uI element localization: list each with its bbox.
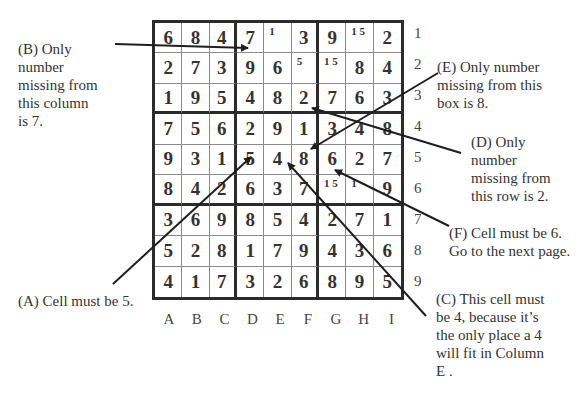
cell-value: 1 [245, 240, 255, 262]
cell-value: 7 [245, 27, 255, 49]
annotation-d-line: number [471, 151, 551, 169]
cell-d4: 2 [237, 114, 264, 144]
cell-e7: 5 [264, 206, 291, 236]
cell-h9: 9 [346, 267, 373, 297]
cell-i5: 7 [374, 145, 401, 175]
column-label: D [238, 311, 266, 328]
cell-c9: 7 [210, 267, 237, 297]
cell-g5: 6 [319, 145, 346, 175]
cell-c6: 2 [210, 175, 237, 205]
cell-value: 2 [245, 118, 255, 140]
annotation-e-line: box is 8. [437, 94, 542, 112]
cell-a7: 3 [155, 206, 182, 236]
annotation-f-line: (F) Cell must be 6. [449, 224, 570, 242]
cell-value: 6 [245, 178, 255, 200]
cell-d7: 8 [237, 206, 264, 236]
cell-c5: 1 [210, 145, 237, 175]
cell-b2: 7 [182, 53, 209, 83]
cell-f5: 8 [292, 145, 319, 175]
cell-h8: 3 [346, 236, 373, 266]
cell-c3: 5 [210, 84, 237, 114]
cell-value: 9 [327, 27, 337, 49]
cell-h4: 4 [346, 114, 373, 144]
cell-b7: 6 [182, 206, 209, 236]
cell-i1: 2 [374, 23, 401, 53]
annotation-b-line: (B) Only [18, 40, 98, 58]
cell-h3: 6 [346, 84, 373, 114]
cell-value: 2 [383, 27, 393, 49]
cell-d8: 1 [237, 236, 264, 266]
cell-e9: 2 [264, 267, 291, 297]
cell-value: 9 [245, 57, 255, 79]
cell-value: 8 [299, 148, 309, 170]
row-label: 5 [414, 149, 422, 166]
cell-i7: 1 [374, 206, 401, 236]
cell-value: 6 [355, 87, 365, 109]
cell-h6: 1 [346, 175, 373, 205]
row-label: 7 [414, 211, 422, 228]
cell-i4: 8 [374, 114, 401, 144]
pencil-mark: 1 5 [351, 25, 365, 37]
cell-b5: 3 [182, 145, 209, 175]
annotation-b-line: this column [18, 94, 98, 112]
cell-h5: 2 [346, 145, 373, 175]
cell-value: 9 [273, 118, 283, 140]
annotation-c-line: (C) This cell must [436, 290, 544, 308]
annotation-d-line: missing from [471, 169, 551, 187]
cell-value: 4 [327, 240, 337, 262]
cell-value: 2 [191, 240, 201, 262]
cell-value: 7 [327, 87, 337, 109]
cell-b4: 5 [182, 114, 209, 144]
cell-e4: 9 [264, 114, 291, 144]
cell-value: 4 [217, 27, 227, 49]
annotation-a: (A) Cell must be 5. [18, 292, 133, 310]
cell-value: 5 [163, 240, 173, 262]
pencil-mark: 1 [269, 25, 275, 37]
cell-value: 8 [273, 87, 283, 109]
cell-value: 6 [299, 271, 309, 293]
cell-value: 5 [383, 271, 393, 293]
cell-f6: 7 [292, 175, 319, 205]
column-label: G [322, 311, 350, 328]
cell-value: 7 [217, 271, 227, 293]
row-label: 3 [414, 87, 422, 104]
row-label: 1 [414, 25, 422, 42]
cell-value: 3 [383, 87, 393, 109]
cell-e2: 6 [264, 53, 291, 83]
cell-g4: 3 [319, 114, 346, 144]
cell-g7: 2 [319, 206, 346, 236]
pencil-mark: 1 [351, 177, 357, 189]
annotation-b: (B) Only number missing from this column… [18, 40, 98, 130]
cell-value: 6 [191, 209, 201, 231]
annotation-b-line: missing from [18, 76, 98, 94]
annotation-d: (D) Only number missing from this row is… [471, 133, 551, 205]
row-label: 9 [414, 273, 422, 290]
cell-value: 1 [383, 209, 393, 231]
cell-value: 7 [191, 57, 201, 79]
annotation-c: (C) This cell must be 4, because it’s th… [436, 290, 544, 380]
cell-b1: 8 [182, 23, 209, 53]
cell-a5: 9 [155, 145, 182, 175]
cell-e1: 1 [264, 23, 291, 53]
cell-i3: 3 [374, 84, 401, 114]
cell-value: 8 [327, 271, 337, 293]
cell-i8: 6 [374, 236, 401, 266]
cell-value: 8 [355, 57, 365, 79]
cell-value: 5 [217, 87, 227, 109]
cell-value: 4 [299, 209, 309, 231]
cell-value: 7 [273, 240, 283, 262]
cell-value: 3 [327, 118, 337, 140]
cell-value: 7 [355, 209, 365, 231]
cell-value: 3 [299, 27, 309, 49]
cell-f7: 4 [292, 206, 319, 236]
pencil-mark: 1 5 [324, 55, 338, 67]
cell-f1: 3 [292, 23, 319, 53]
cell-b3: 9 [182, 84, 209, 114]
annotation-b-line: is 7. [18, 112, 98, 130]
sudoku-grid: 68471391 522739651 584195482763756291348… [152, 20, 404, 300]
cell-value: 5 [191, 118, 201, 140]
cell-b9: 1 [182, 267, 209, 297]
annotation-c-line: the only place a 4 [436, 326, 544, 344]
cell-c2: 3 [210, 53, 237, 83]
cell-value: 4 [355, 118, 365, 140]
